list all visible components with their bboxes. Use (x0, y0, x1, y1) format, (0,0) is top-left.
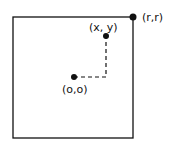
origin-label: (o,o) (62, 83, 88, 96)
dashed-path (74, 36, 106, 77)
corner-point (130, 14, 137, 21)
point-label: (x, y) (89, 21, 118, 34)
origin-point (71, 74, 77, 80)
diagram-canvas: (r,r) (x, y) (o,o) (0, 0, 176, 148)
corner-label: (r,r) (142, 11, 163, 24)
